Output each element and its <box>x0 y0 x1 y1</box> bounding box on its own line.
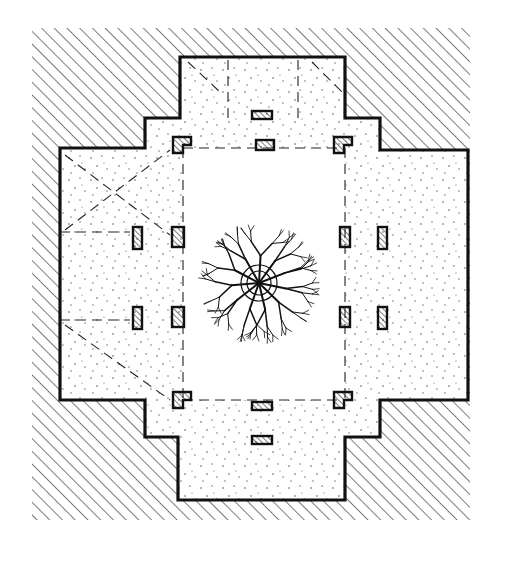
floor-plan-drawing <box>0 0 521 565</box>
column <box>133 227 142 249</box>
column <box>133 307 142 329</box>
column <box>378 307 387 329</box>
column <box>378 227 387 249</box>
floor-plan-figure <box>0 0 521 565</box>
column <box>340 227 350 247</box>
column <box>172 227 184 247</box>
column <box>340 307 350 327</box>
column <box>252 111 272 119</box>
column <box>252 436 272 444</box>
column <box>252 402 272 410</box>
column <box>256 140 274 150</box>
column <box>172 307 184 327</box>
